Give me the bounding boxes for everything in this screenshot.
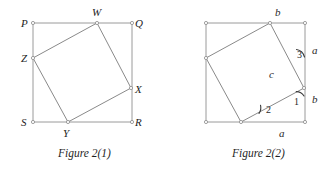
vertex-label-s: S [21,117,27,128]
outer-square-figure-2 [206,23,305,122]
vertex-marker [303,120,306,123]
vertex-label-r: R [135,117,142,128]
vertex-markers-figure-1 [31,21,133,123]
caption-figure-2-1: Figure 2(1) [58,148,111,160]
figure-2-1-graphic [0,0,336,170]
vertex-marker [129,86,132,89]
vertex-marker [239,120,242,123]
inner-square-figure-2 [206,23,304,122]
vertex-marker [130,120,133,123]
vertex-label-q: Q [135,18,143,29]
angle-label-3: 3 [297,50,302,60]
inner-square-wxyz [33,23,131,122]
vertex-marker [31,21,34,24]
vertex-label-y: Y [63,128,69,139]
vertex-marker [204,21,207,24]
angle-arc-2 [259,105,261,113]
vertex-marker [95,21,98,24]
vertex-marker [130,21,133,24]
vertex-marker [31,120,34,123]
vertex-label-x: X [135,84,142,95]
side-label-a-bottom: a [279,128,285,139]
side-label-a-right: a [312,45,318,56]
vertex-label-w: W [92,7,101,18]
vertex-label-z: Z [21,53,27,64]
outer-square-pqrs [33,23,132,122]
vertex-marker [31,56,34,59]
vertex-marker [302,86,305,89]
vertex-markers-figure-2 [204,21,306,123]
figure-board: P Q R S W X Y Z babac 123 Figure 2(1) Fi… [0,0,336,170]
vertex-marker [66,120,69,123]
vertex-marker [204,56,207,59]
angle-label-1: 1 [294,97,299,107]
angle-label-2: 2 [266,105,271,115]
side-label-b-top: b [275,7,281,18]
vertex-marker [268,21,271,24]
caption-figure-2-2: Figure 2(2) [232,148,285,160]
vertex-marker [303,21,306,24]
side-label-b-right: b [312,94,318,105]
vertex-label-p: P [21,18,28,29]
side-label-c-hypotenuse: c [269,69,274,80]
vertex-marker [204,120,207,123]
